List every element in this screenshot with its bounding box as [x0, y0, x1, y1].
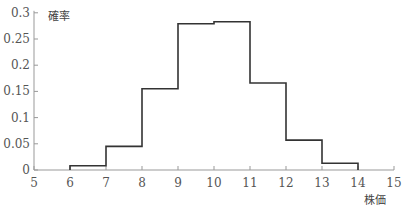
x-tick-label: 12: [278, 176, 293, 190]
y-tick-label: 0.2: [11, 58, 30, 72]
y-tick-label: 0.05: [3, 137, 30, 151]
y-axis-title: 確率: [48, 9, 70, 23]
x-tick-label: 9: [174, 176, 182, 190]
histogram-step-line: [70, 22, 358, 170]
x-tick-label: 5: [30, 176, 38, 190]
y-tick-label: 0.1: [11, 111, 30, 125]
y-axis: 00.050.10.150.20.250.3: [3, 6, 38, 177]
x-axis: 56789101112131415: [30, 166, 401, 190]
x-tick-label: 14: [350, 176, 366, 190]
x-tick-label: 13: [314, 176, 329, 190]
x-tick-label: 7: [102, 176, 110, 190]
x-tick-label: 8: [138, 176, 146, 190]
x-tick-label: 10: [206, 176, 221, 190]
x-tick-label: 15: [386, 176, 401, 190]
y-tick-label: 0.3: [11, 6, 30, 20]
x-axis-title: 株価: [364, 193, 386, 207]
x-tick-label: 6: [66, 176, 74, 190]
y-tick-label: 0: [22, 163, 30, 177]
histogram-chart: 00.050.10.150.20.250.3 56789101112131415…: [0, 0, 407, 216]
y-tick-label: 0.15: [3, 84, 30, 98]
x-tick-label: 11: [242, 176, 257, 190]
y-tick-label: 0.25: [3, 32, 30, 46]
